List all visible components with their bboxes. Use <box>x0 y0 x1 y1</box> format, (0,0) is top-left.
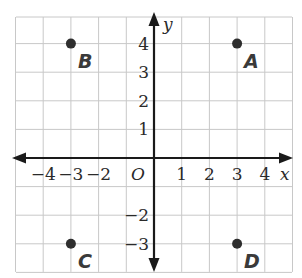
x-axis-left-arrow-icon <box>12 153 26 164</box>
x-tick-label: 4 <box>259 164 270 184</box>
x-tick-label: −4 <box>31 164 56 184</box>
point-label: C <box>78 250 92 272</box>
x-axis-name: x <box>280 164 290 184</box>
y-axis-name: y <box>162 14 173 34</box>
x-tick-label: 1 <box>176 164 187 184</box>
y-tick-label: 1 <box>138 119 149 139</box>
origin-label: O <box>131 164 145 184</box>
points: ABCD <box>66 39 260 272</box>
x-tick-label: −3 <box>58 164 83 184</box>
y-axis-down-arrow-icon <box>149 258 160 272</box>
coordinate-plane: x y O −4−3−212344321−2−3 ABCD <box>0 0 302 278</box>
point-label: A <box>242 50 259 72</box>
y-tick-label: 3 <box>138 62 149 82</box>
x-tick-label: −2 <box>86 164 111 184</box>
tick-labels: −4−3−212344321−2−3 <box>31 34 271 254</box>
y-tick-label: −2 <box>124 205 149 225</box>
point-dot-icon <box>232 39 242 49</box>
point-dot-icon <box>232 239 242 249</box>
y-axis-up-arrow-icon <box>149 12 160 26</box>
y-tick-label: −3 <box>124 234 149 254</box>
x-axis-right-arrow-icon <box>279 153 293 164</box>
x-tick-label: 3 <box>232 164 243 184</box>
point-label: B <box>78 50 92 72</box>
y-tick-label: 4 <box>138 34 149 54</box>
point-dot-icon <box>66 239 76 249</box>
x-tick-label: 2 <box>204 164 215 184</box>
point-dot-icon <box>66 39 76 49</box>
y-tick-label: 2 <box>138 91 149 111</box>
point-label: D <box>244 250 260 272</box>
